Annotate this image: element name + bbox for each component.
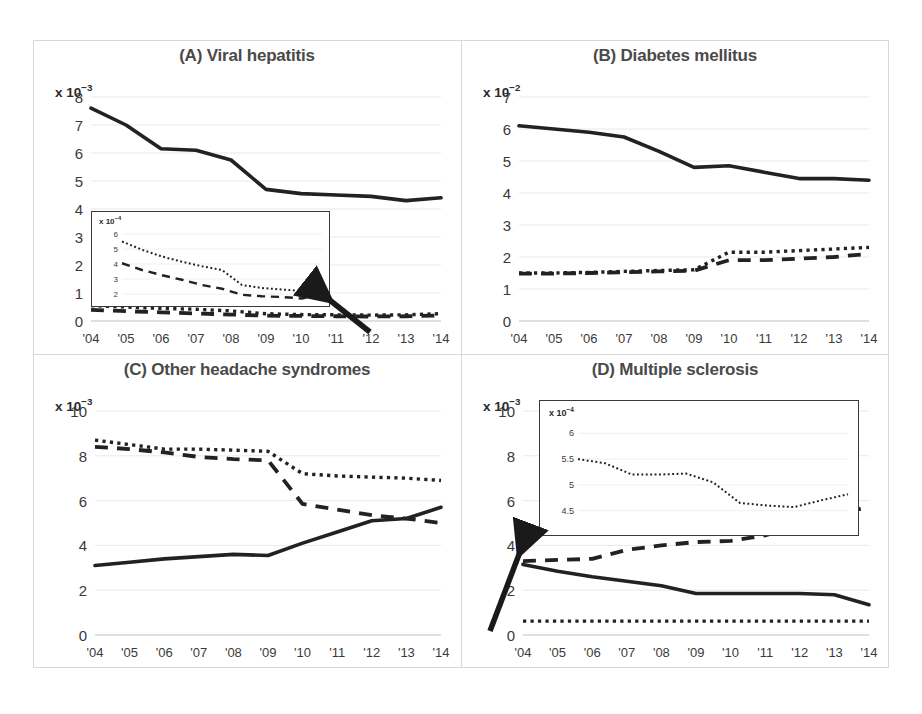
x-tick-label: '06 bbox=[572, 331, 606, 346]
x-tick-label: '13 bbox=[389, 331, 423, 346]
x-tick-label: '09 bbox=[677, 331, 711, 346]
y-tick-label: 8 bbox=[57, 447, 87, 464]
series-line-solid bbox=[523, 564, 869, 604]
panel-c-other-headache-syndromes: (C) Other headache syndromes x 10−3 0246… bbox=[33, 354, 461, 668]
y-tick-label: 3 bbox=[481, 217, 511, 234]
y-tick-label: 4 bbox=[485, 537, 515, 554]
y-tick-label: 6 bbox=[481, 121, 511, 138]
x-tick-label: '07 bbox=[179, 331, 213, 346]
panel-d-multiple-sclerosis: (D) Multiple sclerosis x 10−3 0246810 '0… bbox=[461, 354, 889, 668]
inset-y-tick-label: 5.5 bbox=[554, 454, 574, 464]
x-tick-label: '04 bbox=[74, 331, 108, 346]
y-tick-label: 8 bbox=[485, 447, 515, 464]
y-tick-label: 6 bbox=[53, 145, 83, 162]
x-tick-label: '05 bbox=[537, 331, 571, 346]
x-tick-label: '10 bbox=[286, 645, 320, 660]
panel-b-svg bbox=[461, 40, 889, 354]
inset-series-line-dashed bbox=[122, 263, 322, 298]
x-tick-label: '09 bbox=[251, 645, 285, 660]
inset-y-tick-label: 3 bbox=[98, 275, 118, 284]
x-tick-label: '11 bbox=[319, 331, 353, 346]
y-tick-label: 6 bbox=[485, 492, 515, 509]
y-tick-label: 4 bbox=[57, 537, 87, 554]
inset-y-tick-label: 6 bbox=[554, 428, 574, 438]
x-tick-label: '07 bbox=[607, 331, 641, 346]
x-tick-label: '04 bbox=[502, 331, 536, 346]
x-tick-label: '11 bbox=[747, 331, 781, 346]
x-tick-label: '14 bbox=[852, 645, 886, 660]
x-tick-label: '07 bbox=[182, 645, 216, 660]
x-tick-label: '06 bbox=[147, 645, 181, 660]
y-tick-label: 4 bbox=[481, 185, 511, 202]
x-tick-label: '12 bbox=[355, 645, 389, 660]
y-tick-label: 0 bbox=[485, 627, 515, 644]
y-tick-label: 4 bbox=[53, 201, 83, 218]
panel-c-svg bbox=[33, 354, 461, 668]
x-tick-label: '04 bbox=[506, 645, 540, 660]
series-line-dotted bbox=[95, 440, 441, 480]
panel-d-inset: x 10−4 4.555.56 bbox=[539, 400, 859, 536]
x-tick-label: '14 bbox=[424, 331, 458, 346]
inset-y-tick-label: 6 bbox=[98, 230, 118, 239]
inset-y-tick-label: 2 bbox=[98, 290, 118, 299]
panel-b-diabetes-mellitus: (B) Diabetes mellitus x 10−2 01234567 '0… bbox=[461, 40, 889, 354]
y-tick-label: 1 bbox=[481, 281, 511, 298]
y-tick-label: 5 bbox=[481, 153, 511, 170]
x-tick-label: '12 bbox=[783, 645, 817, 660]
panel-a-inset: x 10−4 23456 bbox=[91, 211, 330, 307]
x-tick-label: '14 bbox=[852, 331, 886, 346]
x-tick-label: '05 bbox=[541, 645, 575, 660]
y-tick-label: 0 bbox=[53, 313, 83, 330]
y-tick-label: 6 bbox=[57, 492, 87, 509]
x-tick-label: '10 bbox=[712, 331, 746, 346]
y-tick-label: 2 bbox=[481, 249, 511, 266]
x-tick-label: '12 bbox=[354, 331, 388, 346]
panel-a-inset-svg bbox=[92, 212, 329, 306]
series-line-solid bbox=[91, 108, 441, 200]
series-line-dashed bbox=[95, 447, 441, 523]
y-tick-label: 5 bbox=[53, 173, 83, 190]
y-tick-label: 2 bbox=[485, 582, 515, 599]
x-tick-label: '13 bbox=[817, 331, 851, 346]
y-tick-label: 7 bbox=[481, 89, 511, 106]
x-tick-label: '08 bbox=[214, 331, 248, 346]
x-tick-label: '07 bbox=[610, 645, 644, 660]
figure-panel-grid: (A) Viral hepatitis x 10−3 012345678 '04… bbox=[0, 0, 922, 714]
y-tick-label: 2 bbox=[53, 257, 83, 274]
panel-a-viral-hepatitis: (A) Viral hepatitis x 10−3 012345678 '04… bbox=[33, 40, 461, 354]
x-tick-label: '12 bbox=[782, 331, 816, 346]
x-tick-label: '10 bbox=[714, 645, 748, 660]
series-line-solid bbox=[519, 126, 869, 180]
inset-y-tick-label: 4.5 bbox=[554, 506, 574, 516]
y-tick-label: 1 bbox=[53, 285, 83, 302]
y-tick-label: 10 bbox=[485, 403, 515, 420]
x-tick-label: '08 bbox=[644, 645, 678, 660]
x-tick-label: '10 bbox=[284, 331, 318, 346]
panel-d-inset-svg bbox=[540, 401, 858, 535]
inset-y-tick-label: 5 bbox=[554, 480, 574, 490]
y-tick-label: 8 bbox=[53, 89, 83, 106]
y-tick-label: 3 bbox=[53, 229, 83, 246]
series-line-dotted bbox=[519, 247, 869, 273]
x-tick-label: '08 bbox=[642, 331, 676, 346]
x-tick-label: '08 bbox=[216, 645, 250, 660]
x-tick-label: '04 bbox=[78, 645, 112, 660]
x-tick-label: '13 bbox=[817, 645, 851, 660]
y-tick-label: 10 bbox=[57, 403, 87, 420]
inset-series-line-dotted bbox=[578, 459, 848, 507]
x-tick-label: '09 bbox=[679, 645, 713, 660]
x-tick-label: '13 bbox=[389, 645, 423, 660]
x-tick-label: '09 bbox=[249, 331, 283, 346]
y-tick-label: 2 bbox=[57, 582, 87, 599]
x-tick-label: '11 bbox=[748, 645, 782, 660]
x-tick-label: '14 bbox=[424, 645, 458, 660]
y-tick-label: 7 bbox=[53, 117, 83, 134]
inset-y-tick-label: 5 bbox=[98, 245, 118, 254]
x-tick-label: '11 bbox=[320, 645, 354, 660]
x-tick-label: '06 bbox=[575, 645, 609, 660]
x-tick-label: '05 bbox=[109, 331, 143, 346]
inset-y-tick-label: 4 bbox=[98, 260, 118, 269]
x-tick-label: '06 bbox=[144, 331, 178, 346]
y-tick-label: 0 bbox=[481, 313, 511, 330]
y-tick-label: 0 bbox=[57, 627, 87, 644]
